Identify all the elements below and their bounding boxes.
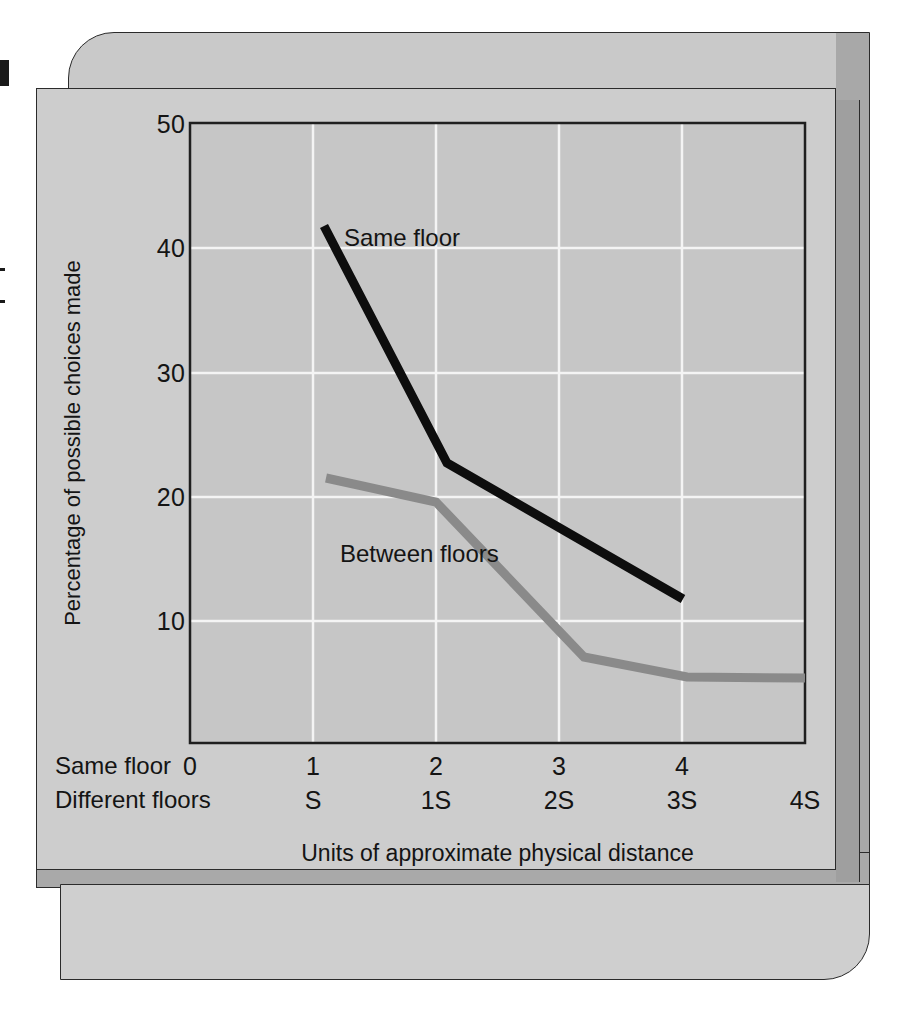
y-axis-title: Percentage of possible choices made bbox=[60, 243, 86, 643]
x-tick-row2-4: 3S bbox=[647, 786, 717, 815]
x-row-label-same-floor: Same floor bbox=[55, 752, 171, 780]
annotation-between-floors: Between floors bbox=[340, 540, 499, 568]
figure-card-stack: 50 40 30 20 10 Percentage of possible ch… bbox=[0, 0, 901, 1013]
x-tick-row1-4: 4 bbox=[647, 752, 717, 781]
y-tick-30: 30 bbox=[125, 359, 185, 388]
chart-card-shadow bbox=[836, 100, 860, 882]
x-tick-row2-3: 2S bbox=[524, 786, 594, 815]
x-tick-row1-1: 1 bbox=[278, 752, 348, 781]
x-tick-row1-3: 3 bbox=[524, 752, 594, 781]
x-tick-row1-0: 0 bbox=[155, 752, 225, 781]
x-row-label-different-floors: Different floors bbox=[55, 786, 211, 814]
x-tick-row1-2: 2 bbox=[401, 752, 471, 781]
y-tick-40: 40 bbox=[125, 234, 185, 263]
y-tick-50: 50 bbox=[125, 110, 185, 139]
x-tick-row2-2: 1S bbox=[401, 786, 471, 815]
y-tick-10: 10 bbox=[125, 607, 185, 636]
x-tick-row2-1: S bbox=[278, 786, 348, 815]
x-tick-row2-5: 4S bbox=[770, 786, 840, 815]
annotation-same-floor: Same floor bbox=[344, 224, 460, 252]
bottom-panel bbox=[60, 884, 870, 980]
y-tick-20: 20 bbox=[125, 483, 185, 512]
x-axis-title: Units of approximate physical distance bbox=[190, 840, 805, 867]
